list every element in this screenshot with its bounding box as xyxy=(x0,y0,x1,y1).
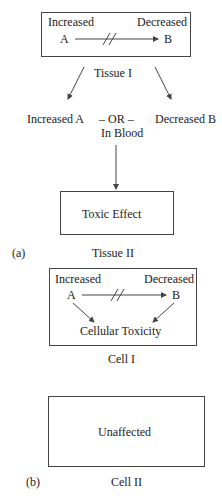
diagram-arrows xyxy=(0,0,222,499)
arrow-to-increased-a xyxy=(68,67,84,99)
arrow-to-decreased-b xyxy=(155,67,171,99)
arrow-b-to-toxicity xyxy=(153,303,174,322)
arrow-a-to-toxicity xyxy=(73,303,94,322)
